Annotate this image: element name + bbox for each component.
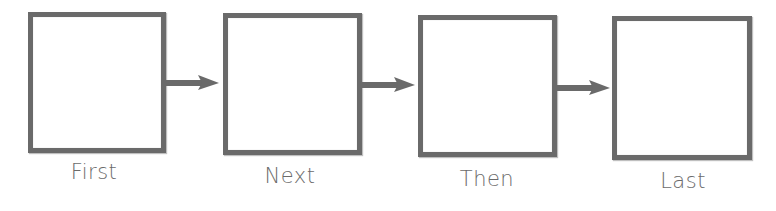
step-label-then: Then [417, 167, 557, 191]
arrow-right-icon [360, 76, 416, 94]
step-label-last: Last [613, 169, 753, 193]
step-box-then [418, 15, 557, 157]
step-box-next [223, 13, 362, 155]
arrow-right-icon [164, 74, 220, 92]
step-label-next: Next [220, 164, 360, 188]
step-label-first: First [24, 160, 164, 184]
step-box-first [28, 12, 166, 153]
arrow-right-icon [555, 79, 611, 97]
step-box-last [612, 16, 752, 160]
